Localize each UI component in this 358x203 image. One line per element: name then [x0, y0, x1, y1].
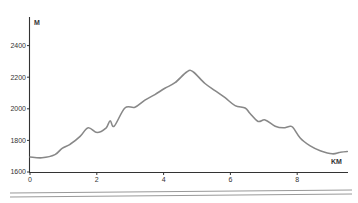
y-axis-unit-label: M [34, 19, 40, 26]
x-tick-label: 2 [95, 176, 99, 183]
axes [29, 17, 348, 173]
elevation-chart: 1600180020002200240002468 M KM [0, 0, 358, 203]
y-tick-label: 2400 [10, 42, 26, 49]
footer-rule [10, 190, 352, 197]
x-axis-unit-label: KM [331, 158, 342, 165]
y-tick-label: 1800 [10, 137, 26, 144]
x-tick-label: 0 [28, 176, 32, 183]
ticks: 1600180020002200240002468 [10, 42, 299, 183]
x-tick-label: 4 [162, 176, 166, 183]
x-tick-label: 8 [295, 176, 299, 183]
y-tick-label: 2200 [10, 74, 26, 81]
elevation-line [30, 70, 347, 158]
x-tick-label: 6 [228, 176, 232, 183]
y-tick-label: 1600 [10, 168, 26, 175]
y-tick-label: 2000 [10, 105, 26, 112]
